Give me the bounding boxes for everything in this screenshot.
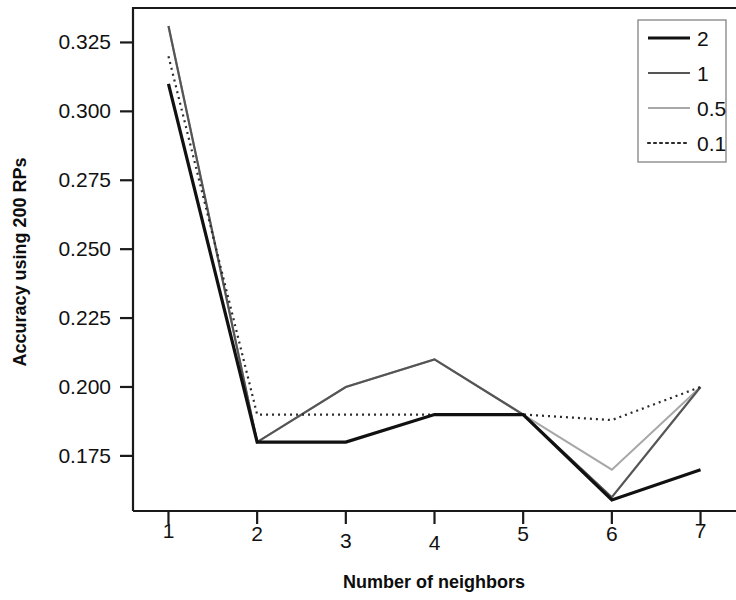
legend-label: 0.1	[697, 132, 726, 155]
y-tick-label: 0.250	[58, 237, 111, 260]
legend-label: 0.5	[697, 97, 726, 120]
series-line	[168, 26, 700, 497]
y-tick-label: 0.225	[58, 306, 111, 329]
series-line	[168, 56, 700, 420]
y-tick-label: 0.275	[58, 168, 111, 191]
x-tick-label: 2	[251, 522, 263, 545]
y-tick-label: 0.200	[58, 375, 111, 398]
legend-label: 2	[697, 27, 709, 50]
series-line	[168, 84, 700, 500]
x-tick-label: 7	[695, 519, 707, 542]
y-tick-label: 0.300	[58, 99, 111, 122]
x-tick-label: 6	[606, 522, 618, 545]
x-axis-ticks: 1234567	[163, 511, 707, 554]
legend: 210.50.1	[638, 20, 726, 162]
y-axis-ticks: 0.1750.2000.2250.2500.2750.3000.325	[58, 30, 133, 466]
series-group	[168, 26, 700, 500]
y-axis-title: Accuracy using 200 RPs	[10, 157, 30, 366]
line-chart-figure: 0.1750.2000.2250.2500.2750.3000.325 1234…	[0, 0, 736, 600]
x-tick-label: 1	[163, 519, 175, 542]
x-tick-label: 5	[517, 522, 529, 545]
legend-label: 1	[697, 62, 709, 85]
y-tick-label: 0.175	[58, 444, 111, 467]
x-tick-label: 3	[340, 529, 352, 552]
y-tick-label: 0.325	[58, 30, 111, 53]
x-axis-title: Number of neighbors	[343, 572, 525, 592]
x-tick-label: 4	[429, 531, 441, 554]
